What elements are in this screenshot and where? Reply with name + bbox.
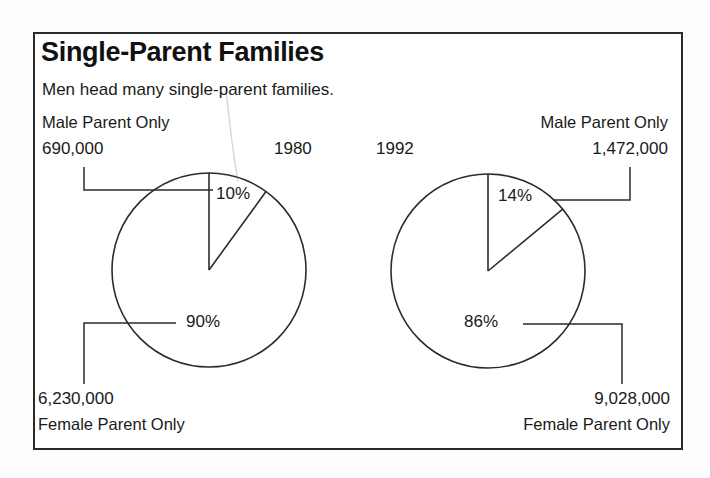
year-label-1992: 1992 (376, 139, 414, 158)
year-label-1980: 1980 (274, 139, 312, 158)
label-1980-female-parent: Female Parent Only (38, 415, 185, 433)
percent-1992-male: 14% (498, 186, 532, 205)
percent-1980-male: 10% (216, 184, 250, 203)
value-1992-female-parent: 9,028,000 (594, 389, 670, 408)
value-1992-male-parent: 1,472,000 (592, 139, 668, 158)
chart-subtitle: Men head many single-parent families. (42, 80, 334, 99)
label-1992-female-parent: Female Parent Only (523, 415, 670, 433)
chart-page: Single-Parent Families Men head many sin… (0, 0, 710, 478)
label-1992-male-parent: Male Parent Only (541, 113, 668, 131)
value-1980-female-parent: 6,230,000 (38, 389, 114, 408)
label-1980-male-parent: Male Parent Only (42, 113, 169, 131)
percent-1980-female: 90% (186, 312, 220, 331)
value-1980-male-parent: 690,000 (42, 139, 103, 158)
percent-1992-female: 86% (464, 312, 498, 331)
page-title: Single-Parent Families (41, 37, 324, 67)
